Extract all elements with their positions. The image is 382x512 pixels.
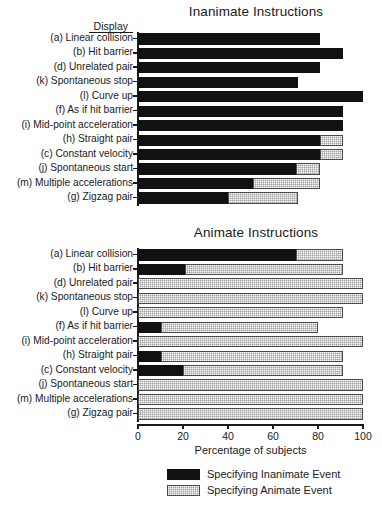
bar-segment-animate-event xyxy=(138,278,363,289)
stacked-bar xyxy=(138,336,363,347)
bar-row-label: (c) Constant velocity xyxy=(0,147,133,161)
legend-swatch-inanimate-icon xyxy=(167,469,200,480)
bar-segment-inanimate-event xyxy=(138,62,320,73)
x-axis-tick-label: 80 xyxy=(312,430,324,442)
bar-segment-animate-event xyxy=(138,336,363,347)
stacked-bar xyxy=(138,62,320,73)
bar-row-label: (m) Multiple accelerations xyxy=(0,176,133,190)
bar-row-label: (b) Hit barrier xyxy=(0,45,133,59)
bar-segment-inanimate-event xyxy=(138,192,228,203)
bar-row-label: (i) Mid-point acceleration xyxy=(0,118,133,132)
bar-row: (a) Linear collision xyxy=(0,248,382,262)
legend-label-inanimate: Specifying Inanimate Event xyxy=(207,468,340,481)
stacked-bar xyxy=(138,192,298,203)
bar-row-label: (m) Multiple accelerations xyxy=(0,392,133,406)
bar-segment-animate-event xyxy=(296,249,343,260)
bar-row-label: (d) Unrelated pair xyxy=(0,60,133,74)
bar-row-label: (b) Hit barrier xyxy=(0,261,133,275)
bar-row-label: (l) Curve up xyxy=(0,305,133,319)
bar-segment-inanimate-event xyxy=(138,106,343,117)
bar-row-label: (g) Zigzag pair xyxy=(0,190,133,204)
stacked-bar xyxy=(138,379,363,390)
bar-row: (a) Linear collision xyxy=(0,32,382,46)
bar-row-label: (k) Spontaneous stop xyxy=(0,74,133,88)
bar-row: (j) Spontaneous start xyxy=(0,378,382,392)
chart-title-animate: Animate Instructions xyxy=(130,225,382,240)
bar-segment-inanimate-event xyxy=(138,163,296,174)
stacked-bar xyxy=(138,278,363,289)
bar-segment-inanimate-event xyxy=(138,48,343,59)
bar-segment-animate-event xyxy=(228,192,298,203)
bar-segment-inanimate-event xyxy=(138,91,363,102)
bar-row: (h) Straight pair xyxy=(0,349,382,363)
bar-segment-animate-event xyxy=(185,264,343,275)
stacked-bar xyxy=(138,135,343,146)
stacked-bar xyxy=(138,394,363,405)
stacked-bar xyxy=(138,264,343,275)
bar-row: (i) Mid-point acceleration xyxy=(0,335,382,349)
bar-segment-inanimate-event xyxy=(138,120,343,131)
bar-segment-inanimate-event xyxy=(138,365,183,376)
stacked-bar xyxy=(138,365,343,376)
bar-row-label: (j) Spontaneous start xyxy=(0,161,133,175)
bar-segment-inanimate-event xyxy=(138,135,320,146)
plot-area-inanimate: (a) Linear collision(b) Hit barrier(d) U… xyxy=(0,32,382,208)
bar-row-label: (d) Unrelated pair xyxy=(0,276,133,290)
bar-segment-inanimate-event xyxy=(138,322,161,333)
stacked-bar xyxy=(138,120,343,131)
bar-segment-inanimate-event xyxy=(138,249,296,260)
bar-segment-animate-event xyxy=(138,379,363,390)
bar-row: (l) Curve up xyxy=(0,90,382,104)
legend-label-animate: Specifying Animate Event xyxy=(207,484,332,497)
stacked-bar xyxy=(138,249,343,260)
legend-swatch-animate-icon xyxy=(167,485,200,496)
bar-row: (k) Spontaneous stop xyxy=(0,291,382,305)
bar-segment-inanimate-event xyxy=(138,178,253,189)
x-axis: Percentage of subjects 020406080100 xyxy=(0,424,382,454)
bar-row-label: (f) As if hit barrier xyxy=(0,103,133,117)
stacked-bar xyxy=(138,106,343,117)
bar-segment-inanimate-event xyxy=(138,33,320,44)
figure-two-panel-bar-chart: Inanimate Instructions Display (a) Linea… xyxy=(0,0,382,512)
stacked-bar xyxy=(138,91,363,102)
x-axis-tick xyxy=(317,424,319,429)
x-axis-tick-label: 20 xyxy=(177,430,189,442)
bar-segment-animate-event xyxy=(183,365,343,376)
bar-row: (g) Zigzag pair xyxy=(0,191,382,205)
bar-segment-inanimate-event xyxy=(138,77,298,88)
bar-segment-animate-event xyxy=(138,394,363,405)
stacked-bar xyxy=(138,408,363,419)
stacked-bar xyxy=(138,149,343,160)
bar-row: (c) Constant velocity xyxy=(0,364,382,378)
bar-row: (f) As if hit barrier xyxy=(0,320,382,334)
bar-row: (f) As if hit barrier xyxy=(0,104,382,118)
x-axis-tick-label: 40 xyxy=(222,430,234,442)
bar-row-label: (a) Linear collision xyxy=(0,31,133,45)
legend: Specifying Inanimate Event Specifying An… xyxy=(0,468,382,502)
x-axis-tick xyxy=(137,424,139,429)
bar-row: (h) Straight pair xyxy=(0,133,382,147)
bar-row: (m) Multiple accelerations xyxy=(0,393,382,407)
x-axis-tick xyxy=(362,424,364,429)
bar-segment-animate-event xyxy=(161,322,319,333)
stacked-bar xyxy=(138,48,343,59)
stacked-bar xyxy=(138,163,320,174)
bar-row-label: (i) Mid-point acceleration xyxy=(0,334,133,348)
bar-segment-animate-event xyxy=(161,351,343,362)
bar-segment-animate-event xyxy=(253,178,321,189)
stacked-bar xyxy=(138,77,298,88)
x-axis-tick-label: 0 xyxy=(135,430,141,442)
plot-area-animate: (a) Linear collision(b) Hit barrier(d) U… xyxy=(0,248,382,424)
stacked-bar xyxy=(138,178,320,189)
bar-row: (m) Multiple accelerations xyxy=(0,177,382,191)
stacked-bar xyxy=(138,322,318,333)
bar-segment-inanimate-event xyxy=(138,351,161,362)
x-axis-title: Percentage of subjects xyxy=(137,444,364,456)
bar-row-label: (l) Curve up xyxy=(0,89,133,103)
bar-row-label: (g) Zigzag pair xyxy=(0,406,133,420)
bar-row: (g) Zigzag pair xyxy=(0,407,382,421)
bar-row: (j) Spontaneous start xyxy=(0,162,382,176)
bar-row-label: (k) Spontaneous stop xyxy=(0,290,133,304)
chart-title-inanimate: Inanimate Instructions xyxy=(130,4,382,19)
stacked-bar xyxy=(138,351,343,362)
